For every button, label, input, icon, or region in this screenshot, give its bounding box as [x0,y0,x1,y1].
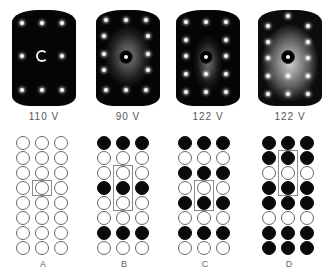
unit-cell-outline [113,165,133,211]
diffraction-spot [124,88,128,92]
substrate-atom [97,241,111,255]
adsorbate-atom [178,226,192,240]
substrate-atom [178,241,192,255]
diffraction-spot [40,21,44,25]
adsorbate-atom [97,226,111,240]
substrate-atom [54,211,68,225]
model-label: D [262,259,316,269]
substrate-atom [300,211,314,225]
adsorbate-atom [116,226,130,240]
diffraction-spot [184,90,188,94]
diffraction-spot [102,68,106,72]
diffraction-spot [286,92,290,96]
substrate-atom [16,181,30,195]
substrate-atom [300,166,314,180]
diffraction-spot [266,74,270,78]
diffraction-spot [204,90,208,94]
substrate-atom [216,181,230,195]
electron-gun-shadow [281,50,295,64]
diffraction-spot [124,18,128,22]
adsorbate-atom [262,196,276,210]
substrate-atom [135,151,149,165]
diffraction-spot [20,88,24,92]
substrate-atom [16,211,30,225]
substrate-atom [54,181,68,195]
substrate-atom [216,211,230,225]
diffraction-spot [184,20,188,24]
diffraction-spot [20,21,24,25]
leed-pattern-2 [96,10,160,106]
adsorbate-atom [300,241,314,255]
diffraction-spot [104,88,108,92]
substrate-atom [135,211,149,225]
substrate-atom [178,181,192,195]
diffraction-spot [184,54,188,58]
model-label: A [16,259,70,269]
adsorbate-atom [281,196,295,210]
adsorbate-atom [97,181,111,195]
substrate-atom [197,151,211,165]
substrate-atom [197,241,211,255]
adsorbate-atom [197,136,211,150]
diffraction-spot [266,40,270,44]
voltage-label: 90 V [96,111,160,122]
leed-pattern-3 [176,10,240,106]
adsorbate-atom [178,196,192,210]
diffraction-spot [306,56,310,60]
adsorbate-atom [262,181,276,195]
substrate-atom [135,166,149,180]
adsorbate-atom [281,226,295,240]
diffraction-spot [306,74,310,78]
substrate-atom [97,196,111,210]
adsorbate-atom [97,136,111,150]
substrate-atom [54,241,68,255]
adsorbate-atom [197,226,211,240]
diffraction-spot [40,88,44,92]
diffraction-spot [60,21,64,25]
diffraction-spot [266,56,270,60]
model-label: B [97,259,151,269]
substrate-atom [16,151,30,165]
adsorbate-atom [281,241,295,255]
diffraction-spot [184,38,188,42]
substrate-atom [35,166,49,180]
substrate-atom [35,226,49,240]
substrate-atom [116,151,130,165]
substrate-atom [54,151,68,165]
diffraction-spot [224,72,228,76]
model-label: C [178,259,232,269]
diffraction-spot [104,18,108,22]
diffraction-spot [20,54,24,58]
adsorbate-atom [262,151,276,165]
diffraction-spot [102,34,106,38]
substrate-atom [135,241,149,255]
voltage-label: 110 V [12,111,76,122]
substrate-atom [35,196,49,210]
unit-cell-outline [32,180,52,196]
substrate-atom [97,151,111,165]
diffraction-spot [306,24,310,28]
diffraction-spot [146,68,150,72]
adsorbate-atom [116,136,130,150]
substrate-atom [35,136,49,150]
substrate-atom [262,166,276,180]
diffraction-spot [144,88,148,92]
substrate-atom [16,166,30,180]
diffraction-spot [306,40,310,44]
substrate-atom [16,241,30,255]
voltage-label: 122 V [176,111,240,122]
substrate-atom [97,166,111,180]
substrate-atom [216,151,230,165]
unit-cell-outline [194,180,214,211]
diffraction-spot [60,54,64,58]
adsorbate-atom [135,181,149,195]
substrate-atom [35,211,49,225]
substrate-atom [35,241,49,255]
diffraction-spot [204,20,208,24]
electron-gun-shadow [119,50,133,64]
adsorbate-atom [216,196,230,210]
electron-gun-shadow [36,50,48,62]
adsorbate-atom [135,136,149,150]
adsorbate-atom [178,166,192,180]
diffraction-spot [204,72,208,76]
